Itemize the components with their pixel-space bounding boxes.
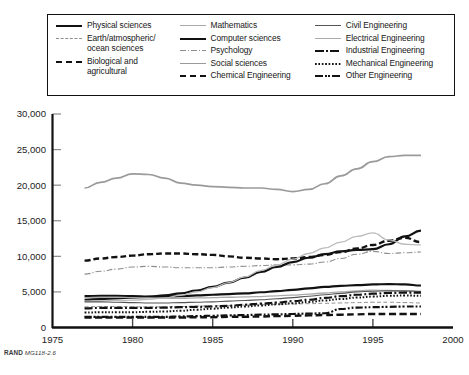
y-axis-tick-label: 15,000 [17,215,46,226]
legend-item-label: Chemical Engineering [211,70,291,81]
legend-item-label: Civil Engineering [346,20,407,31]
series-line [85,231,421,300]
legend-item-label: Social sciences [211,58,267,69]
legend-line-swatch-icon [180,45,206,56]
x-axis-tick-label: 1975 [42,334,63,345]
legend-item-label: Biological and agricultural [87,56,138,77]
legend-item-label: Industrial Engineering [346,45,425,56]
y-axis-tick-label: 20,000 [17,180,46,191]
legend-item-label: Mechanical Engineering [346,58,433,69]
legend-line-swatch-icon [56,33,82,44]
x-axis: 197519801985199019952000 [42,319,464,345]
legend-item-chemical-engineering: Chemical Engineering [180,70,315,81]
legend-columns: Physical sciences Earth/atmospheric/ oce… [48,15,454,95]
legend-item-civil-engineering: Civil Engineering [315,20,450,31]
x-axis-tick-label: 2000 [442,334,463,345]
legend-line-swatch-icon [315,33,341,44]
series-line [85,314,421,318]
legend-item-label: Other Engineering [346,70,412,81]
legend-column-1: Physical sciences Earth/atmospheric/ oce… [56,20,180,91]
legend-line-swatch-icon [180,70,206,81]
x-axis-tick-label: 1995 [362,334,383,345]
legend-item-label: Mathematics [211,20,257,31]
x-axis-tick-label: 1980 [122,334,143,345]
x-axis-tick-label: 1985 [202,334,223,345]
y-axis-tick-label: 10,000 [17,251,46,262]
legend-item-label: Computer sciences [211,33,281,44]
y-axis: 05,00010,00015,00020,00025,00030,000 [17,108,61,333]
x-axis-tick-label: 1990 [282,334,303,345]
legend-item-other-engineering: Other Engineering [315,70,450,81]
legend-item-social-sciences: Social sciences [180,58,315,69]
legend-line-swatch-icon [180,58,206,69]
legend-line-swatch-icon [180,33,206,44]
source-note: RAND MG118-2.6 [4,349,56,356]
legend-item-label: Electrical Engineering [346,33,425,44]
y-axis-tick-label: 0 [41,322,46,333]
legend-item-label: Earth/atmospheric/ ocean sciences [87,33,156,54]
legend-item-industrial-engineering: Industrial Engineering [315,45,450,56]
legend-line-swatch-icon [56,20,82,31]
legend-line-swatch-icon [315,70,341,81]
source-code: MG118-2.6 [25,349,56,356]
legend-line-swatch-icon [56,56,82,67]
legend-item-mathematics: Mathematics [180,20,315,31]
chart-legend: Physical sciences Earth/atmospheric/ oce… [47,14,455,96]
y-axis-tick-label: 5,000 [22,286,46,297]
legend-item-psychology: Psychology [180,45,315,56]
y-axis-tick-label: 30,000 [17,108,46,119]
series-lines [85,155,421,317]
legend-item-earth-atmospheric-ocean-sciences: Earth/atmospheric/ ocean sciences [56,33,180,54]
legend-item-electrical-engineering: Electrical Engineering [315,33,450,44]
legend-item-label: Physical sciences [87,20,151,31]
source-publisher: RAND [4,349,23,356]
series-line [85,155,421,191]
legend-column-2: Mathematics Computer sciences Psychology… [180,20,315,91]
legend-item-physical-sciences: Physical sciences [56,20,180,31]
legend-line-swatch-icon [315,20,341,31]
legend-item-mechanical-engineering: Mechanical Engineering [315,58,450,69]
chart-plot-area: 05,00010,00015,00020,00025,00030,000 197… [0,100,469,350]
legend-column-3: Civil Engineering Electrical Engineering… [315,20,450,91]
y-axis-tick-label: 25,000 [17,144,46,155]
legend-line-swatch-icon [315,45,341,56]
legend-item-label: Psychology [211,45,253,56]
legend-line-swatch-icon [315,58,341,69]
legend-line-swatch-icon [180,20,206,31]
line-chart-svg: 05,00010,00015,00020,00025,00030,000 197… [0,100,469,350]
legend-item-biological-and-agricultural: Biological and agricultural [56,56,180,77]
legend-item-computer-sciences: Computer sciences [180,33,315,44]
